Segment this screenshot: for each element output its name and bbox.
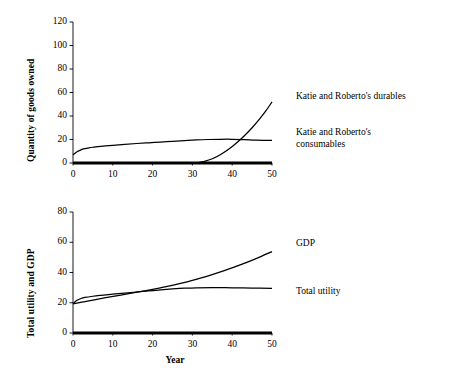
series-line-katie-and-roberto-s-consumables <box>73 139 272 155</box>
series-line-gdp <box>73 252 272 304</box>
bottom-x-tick-50: 50 <box>258 339 286 349</box>
top-y-tick-60: 60 <box>35 87 67 97</box>
top-y-tick-0: 0 <box>35 157 67 167</box>
top-data-series <box>73 102 272 163</box>
top-x-tick-50: 50 <box>258 169 286 179</box>
top-y-tick-20: 20 <box>35 134 67 144</box>
series-label-total-utility: Total utility <box>296 286 340 298</box>
series-label-consumables: Katie and Roberto's consumables <box>296 127 371 150</box>
series-label-gdp: GDP <box>296 238 315 250</box>
bottom-x-axis-title: Year <box>140 355 210 365</box>
series-line-total-utility <box>73 288 272 304</box>
bottom-y-tick-80: 80 <box>35 206 67 216</box>
top-x-tick-40: 40 <box>218 169 246 179</box>
figure-container: Quantity of goods owned 020406080100120 … <box>0 0 452 386</box>
top-y-tick-80: 80 <box>35 63 67 73</box>
bottom-y-tick-0: 0 <box>35 327 67 337</box>
chart-panel-bottom: Total utility and GDP 020406080 01020304… <box>0 190 452 386</box>
bottom-plot-area <box>0 190 452 386</box>
top-y-tick-120: 120 <box>35 16 67 26</box>
chart-panel-top: Quantity of goods owned 020406080100120 … <box>0 0 452 196</box>
top-x-tick-20: 20 <box>139 169 167 179</box>
bottom-data-series <box>73 252 272 333</box>
bottom-x-tick-10: 10 <box>99 339 127 349</box>
series-label-durables: Katie and Roberto's durables <box>296 91 406 103</box>
top-x-tick-0: 0 <box>59 169 87 179</box>
bottom-x-tick-40: 40 <box>218 339 246 349</box>
bottom-y-tick-40: 40 <box>35 267 67 277</box>
bottom-x-tick-0: 0 <box>59 339 87 349</box>
top-x-tick-10: 10 <box>99 169 127 179</box>
series-line-katie-and-roberto-s-durables <box>73 102 272 163</box>
top-y-tick-100: 100 <box>35 40 67 50</box>
bottom-x-tick-30: 30 <box>178 339 206 349</box>
bottom-y-tick-60: 60 <box>35 236 67 246</box>
top-y-tick-40: 40 <box>35 110 67 120</box>
top-tick-marks <box>70 22 273 166</box>
bottom-y-tick-20: 20 <box>35 297 67 307</box>
top-x-tick-30: 30 <box>178 169 206 179</box>
bottom-x-tick-20: 20 <box>139 339 167 349</box>
bottom-tick-marks <box>70 212 273 336</box>
